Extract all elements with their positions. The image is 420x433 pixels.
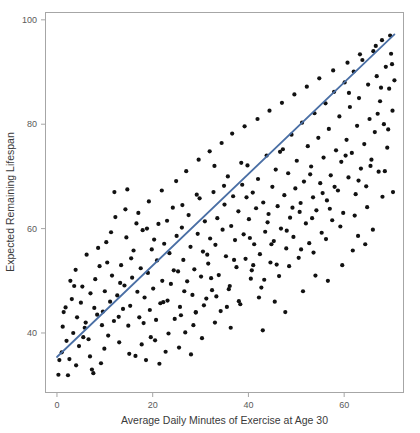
scatter-point bbox=[268, 260, 272, 264]
scatter-point bbox=[176, 269, 180, 273]
scatter-point bbox=[243, 257, 247, 261]
x-tick-label: 0 bbox=[54, 400, 59, 410]
scatter-point bbox=[105, 260, 109, 264]
scatter-point bbox=[337, 114, 341, 118]
scatter-point bbox=[233, 238, 237, 242]
scatter-point bbox=[192, 267, 196, 271]
scatter-point bbox=[109, 230, 113, 234]
scatter-point bbox=[339, 160, 343, 164]
scatter-point bbox=[74, 268, 78, 272]
scatter-point bbox=[215, 216, 219, 220]
scatter-point bbox=[252, 242, 256, 246]
scatter-point bbox=[317, 76, 321, 80]
scatter-point bbox=[257, 295, 261, 299]
scatter-point bbox=[150, 247, 154, 251]
scatter-point bbox=[299, 247, 303, 251]
scatter-point bbox=[336, 188, 340, 192]
scatter-point bbox=[197, 158, 201, 162]
scatter-point bbox=[137, 315, 141, 319]
scatter-point bbox=[112, 190, 116, 194]
scatter-point bbox=[295, 159, 299, 163]
scatter-point bbox=[226, 174, 230, 178]
y-axis-tick-marks bbox=[41, 20, 45, 333]
scatter-point bbox=[125, 187, 129, 191]
scatter-point bbox=[220, 141, 224, 145]
scatter-point bbox=[231, 194, 235, 198]
scatter-point bbox=[204, 296, 208, 300]
scatter-point bbox=[108, 300, 112, 304]
scatter-point bbox=[86, 337, 90, 341]
scatter-point bbox=[261, 200, 265, 204]
scatter-point bbox=[72, 284, 76, 288]
scatter-point bbox=[179, 313, 183, 317]
scatter-point bbox=[392, 78, 396, 82]
scatter-point bbox=[161, 300, 165, 304]
scatter-point bbox=[127, 352, 131, 356]
scatter-point bbox=[265, 220, 269, 224]
scatter-point bbox=[389, 52, 393, 56]
scatter-point bbox=[320, 231, 324, 235]
scatter-point bbox=[219, 309, 223, 313]
y-axis-title: Expected Remaining Lifespan bbox=[4, 132, 16, 272]
x-axis-title: Average Daily Minutes of Exercise at Age… bbox=[121, 414, 328, 426]
scatter-point bbox=[287, 264, 291, 268]
scatter-point bbox=[208, 149, 212, 153]
scatter-point bbox=[212, 164, 216, 168]
scatter-point bbox=[309, 164, 313, 168]
scatter-point bbox=[314, 208, 318, 212]
scatter-point bbox=[229, 224, 233, 228]
scatter-point bbox=[251, 263, 255, 267]
scatter-point bbox=[103, 289, 107, 293]
scatter-point bbox=[229, 326, 233, 330]
scatter-point bbox=[248, 236, 252, 240]
scatter-point bbox=[256, 177, 260, 181]
scatter-point bbox=[222, 202, 226, 206]
scatter-point bbox=[321, 191, 325, 195]
scatter-point bbox=[131, 248, 135, 252]
y-tick-label: 80 bbox=[27, 119, 37, 129]
scatter-point bbox=[353, 213, 357, 217]
scatter-point bbox=[151, 287, 155, 291]
scatter-point bbox=[230, 132, 234, 136]
scatter-point bbox=[126, 324, 130, 328]
scatter-point bbox=[346, 175, 350, 179]
scatter-point bbox=[273, 300, 277, 304]
scatter-point bbox=[68, 279, 72, 283]
scatter-point bbox=[355, 124, 359, 128]
scatter-point bbox=[334, 148, 338, 152]
scatter-point bbox=[236, 209, 240, 213]
scatter-point bbox=[379, 86, 383, 90]
scatter-point bbox=[181, 258, 185, 262]
scatter-point bbox=[172, 268, 176, 272]
scatter-point bbox=[371, 228, 375, 232]
scatter-point bbox=[358, 52, 362, 56]
scatter-point bbox=[211, 190, 215, 194]
scatter-point bbox=[112, 319, 116, 323]
scatter-point bbox=[71, 331, 75, 335]
scatter-point bbox=[147, 199, 151, 203]
scatter-point bbox=[66, 373, 70, 377]
scatter-point bbox=[258, 252, 262, 256]
scatter-point bbox=[130, 276, 134, 280]
scatter-point bbox=[123, 207, 127, 211]
scatter-point bbox=[232, 258, 236, 262]
scatter-point bbox=[274, 168, 278, 172]
scatter-point bbox=[149, 335, 153, 339]
scatter-point bbox=[142, 321, 146, 325]
scatter-point bbox=[189, 352, 193, 356]
scatter-point bbox=[209, 276, 213, 280]
x-tick-label: 60 bbox=[339, 400, 349, 410]
scatter-point bbox=[79, 301, 83, 305]
scatter-point bbox=[85, 253, 89, 257]
scatter-point bbox=[178, 305, 182, 309]
scatter-point bbox=[293, 186, 297, 190]
scatter-point bbox=[119, 263, 123, 267]
scatter-point bbox=[93, 277, 97, 281]
scatter-point bbox=[227, 287, 231, 291]
scatter-point bbox=[340, 263, 344, 267]
scatter-point bbox=[141, 228, 145, 232]
scatter-point bbox=[136, 211, 140, 215]
scatter-point bbox=[332, 185, 336, 189]
scatter-point bbox=[145, 227, 149, 231]
scatter-point bbox=[279, 227, 283, 231]
